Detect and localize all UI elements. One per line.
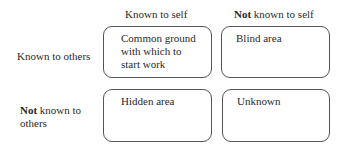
column-header-text: Known to self bbox=[125, 8, 187, 20]
row-header-text-line2: others bbox=[20, 117, 81, 130]
column-header-known-to-self: Known to self bbox=[125, 8, 187, 21]
bold-prefix: Not bbox=[20, 104, 37, 116]
cell-text: Unknown bbox=[237, 95, 280, 108]
row-header-known-to-others: Known to others bbox=[17, 50, 90, 63]
cell-common-ground: Common ground with which to start work bbox=[103, 26, 212, 78]
row-header-text-line1: known to bbox=[37, 104, 81, 116]
cell-text: Hidden area bbox=[121, 95, 174, 108]
cell-text-line3: start work bbox=[121, 58, 196, 71]
cell-text-line1: Common ground bbox=[121, 32, 196, 45]
cell-text-line2: with which to bbox=[121, 45, 196, 58]
column-header-text: known to self bbox=[251, 8, 314, 20]
cell-text: Blind area bbox=[236, 32, 282, 45]
cell-hidden-area: Hidden area bbox=[103, 89, 212, 142]
bold-prefix: Not bbox=[234, 8, 251, 20]
column-header-not-known-to-self: Not known to self bbox=[234, 8, 314, 21]
cell-unknown: Unknown bbox=[222, 89, 330, 142]
cell-text: Common ground with which to start work bbox=[121, 32, 196, 71]
cell-blind-area: Blind area bbox=[221, 26, 330, 78]
row-header-text: Known to others bbox=[17, 50, 90, 62]
row-header-not-known-to-others: Not known to others bbox=[20, 104, 81, 130]
